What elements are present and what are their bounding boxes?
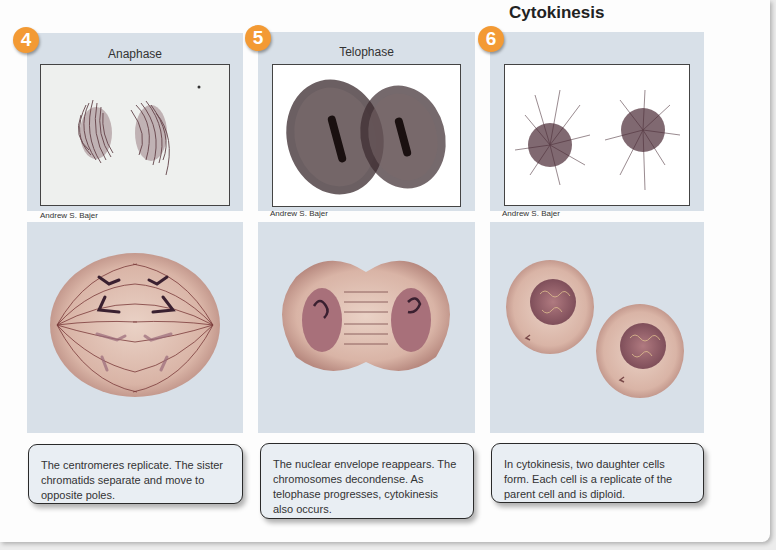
cytokinesis-photo-panel (490, 32, 704, 211)
anaphase-description-text: The centromeres replicate. The sister ch… (41, 459, 223, 501)
cytokinesis-description: In cytokinesis, two daughter cells form.… (491, 443, 704, 503)
telophase-photo-credit: Andrew S. Bajer (270, 209, 328, 218)
anaphase-cell-illustration (27, 222, 243, 433)
anaphase-description: The centromeres replicate. The sister ch… (28, 444, 243, 504)
telophase-photo-panel: Telophase (258, 32, 475, 211)
cytokinesis-description-text: In cytokinesis, two daughter cells form.… (504, 458, 672, 500)
telophase-micrograph-image (273, 65, 461, 207)
step-badge-5: 5 (245, 25, 271, 51)
cytokinesis-cells-illustration (490, 222, 704, 433)
textbook-page: 4 Anaphase Andrew S. Bajer (0, 0, 770, 542)
anaphase-photo-panel: Anaphase (27, 33, 243, 211)
cytokinesis-micrograph-image (505, 65, 690, 206)
anaphase-photo-credit: Andrew S. Bajer (40, 211, 98, 220)
anaphase-illustration-panel (27, 222, 243, 433)
cytokinesis-photo-credit: Andrew S. Bajer (502, 209, 560, 218)
anaphase-micrograph-image (41, 65, 230, 206)
cytokinesis-heading: Cytokinesis (509, 3, 604, 23)
cytokinesis-micrograph (504, 64, 690, 206)
telophase-illustration-panel (258, 222, 475, 433)
telophase-description-text: The nuclear envelope reappears. The chro… (273, 458, 456, 515)
telophase-cell-illustration (258, 222, 475, 433)
telophase-description: The nuclear envelope reappears. The chro… (260, 443, 474, 519)
telophase-title: Telophase (258, 45, 475, 59)
step-badge-4: 4 (13, 27, 39, 53)
anaphase-micrograph (40, 64, 230, 206)
step-badge-6: 6 (478, 26, 504, 52)
cytokinesis-illustration-panel (490, 222, 704, 433)
telophase-micrograph (272, 64, 461, 207)
anaphase-title: Anaphase (27, 47, 243, 61)
